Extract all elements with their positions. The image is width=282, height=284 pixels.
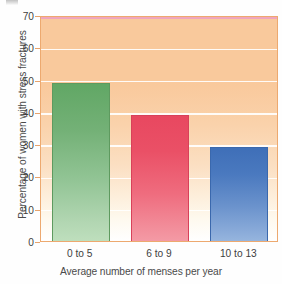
bar-chart-figure: Percentage of women with stress fracture… bbox=[0, 0, 282, 284]
plot-area bbox=[40, 16, 278, 242]
y-tick-label-20: 20 bbox=[16, 172, 34, 183]
y-tick-mark-50 bbox=[35, 81, 40, 82]
bar-0-to-5 bbox=[52, 83, 110, 241]
y-tick-label-10: 10 bbox=[16, 204, 34, 215]
y-tick-label-60: 60 bbox=[16, 43, 34, 54]
x-tick-label-10-to-13: 10 to 13 bbox=[220, 248, 257, 259]
y-tick-label-70: 70 bbox=[16, 11, 34, 22]
y-tick-label-50: 50 bbox=[16, 75, 34, 86]
y-tick-mark-40 bbox=[35, 113, 40, 114]
y-axis-ticks: 706050403020100 bbox=[16, 0, 34, 284]
bar-10-to-13 bbox=[210, 147, 268, 241]
y-tick-mark-60 bbox=[35, 48, 40, 49]
y-tick-label-40: 40 bbox=[16, 107, 34, 118]
x-tick-label-6-to-9: 6 to 9 bbox=[146, 248, 172, 259]
y-tick-mark-20 bbox=[35, 177, 40, 178]
y-tick-mark-70 bbox=[35, 16, 40, 17]
plot-top-accent-line bbox=[41, 17, 277, 19]
y-tick-label-30: 30 bbox=[16, 140, 34, 151]
x-tick-label-0-to-5: 0 to 5 bbox=[67, 248, 93, 259]
bar-6-to-9 bbox=[131, 115, 189, 241]
y-tick-mark-0 bbox=[35, 242, 40, 243]
y-tick-label-0: 0 bbox=[16, 237, 34, 248]
y-tick-mark-10 bbox=[35, 210, 40, 211]
y-tick-mark-30 bbox=[35, 145, 40, 146]
gridline-60 bbox=[41, 49, 277, 50]
x-axis-title: Average number of menses per year bbox=[0, 266, 282, 277]
